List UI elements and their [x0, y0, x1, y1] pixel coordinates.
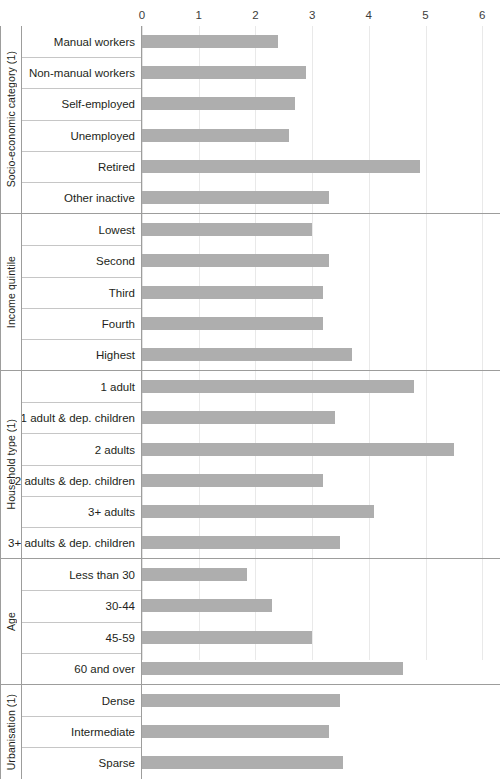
- category-label-column: Manual workersNon-manual workersSelf-emp…: [22, 26, 142, 213]
- group-axis-title: Age: [0, 559, 22, 684]
- bar: [142, 443, 454, 456]
- bar-row: [142, 88, 500, 119]
- x-axis-tick-label: 0: [139, 8, 145, 22]
- bar: [142, 694, 340, 707]
- bars-column: [142, 559, 500, 684]
- bar-row: [142, 685, 500, 716]
- bar-row: [142, 622, 500, 653]
- bar-row: [142, 308, 500, 339]
- category-label: Retired: [22, 151, 141, 182]
- chart-group: Urbanisation (1)DenseIntermediateSparse: [0, 684, 500, 779]
- category-label: Dense: [22, 685, 141, 716]
- bar: [142, 631, 312, 644]
- group-axis-title-label: Urbanisation (1): [5, 694, 17, 770]
- x-axis-tick-label: 3: [309, 8, 315, 22]
- bar-row: [142, 245, 500, 276]
- category-label: Manual workers: [22, 26, 141, 57]
- bar: [142, 35, 278, 48]
- category-label: Unemployed: [22, 120, 141, 151]
- bar-row: [142, 151, 500, 182]
- x-axis-tick-labels: 0123456: [0, 8, 500, 28]
- bar-row: [142, 747, 500, 778]
- category-label: Second: [22, 245, 141, 276]
- bar: [142, 380, 414, 393]
- bar: [142, 474, 323, 487]
- bar: [142, 348, 352, 361]
- bar-row: [142, 433, 500, 464]
- category-label: 3+ adults: [22, 496, 141, 527]
- category-label: Self-employed: [22, 88, 141, 119]
- bars-column: [142, 685, 500, 779]
- chart-group: Socio-economic category (1)Manual worker…: [0, 26, 500, 213]
- category-label: 2 adults: [22, 433, 141, 464]
- category-label: Non-manual workers: [22, 57, 141, 88]
- category-label: 1 adult & dep. children: [22, 402, 141, 433]
- bar-row: [142, 277, 500, 308]
- bar: [142, 725, 329, 738]
- chart-group: AgeLess than 3030-4445-5960 and over: [0, 558, 500, 684]
- x-axis-tick-label: 2: [252, 8, 258, 22]
- bar: [142, 97, 295, 110]
- bar-row: [142, 559, 500, 590]
- category-label: Lowest: [22, 214, 141, 245]
- group-axis-title: Urbanisation (1): [0, 685, 22, 779]
- category-label-column: DenseIntermediateSparse: [22, 685, 142, 779]
- bar-row: [142, 527, 500, 558]
- category-label: 3+ adults & dep. children: [22, 527, 141, 558]
- bar: [142, 160, 420, 173]
- bar-row: [142, 371, 500, 402]
- x-axis-tick-label: 6: [479, 8, 485, 22]
- bar: [142, 505, 374, 518]
- bar-row: [142, 465, 500, 496]
- bar-row: [142, 653, 500, 684]
- chart-group: Income quintileLowestSecondThirdFourthHi…: [0, 213, 500, 370]
- bar: [142, 223, 312, 236]
- group-axis-title-label: Household type (1): [5, 419, 17, 510]
- category-label-column: 1 adult1 adult & dep. children2 adults2 …: [22, 371, 142, 558]
- category-label-column: Less than 3030-4445-5960 and over: [22, 559, 142, 684]
- category-label: Highest: [22, 339, 141, 370]
- bar-row: [142, 182, 500, 213]
- bar: [142, 662, 403, 675]
- bars-column: [142, 371, 500, 558]
- bar-row: [142, 590, 500, 621]
- category-label: 2 adults & dep. children: [22, 465, 141, 496]
- bar: [142, 66, 306, 79]
- group-axis-title: Income quintile: [0, 214, 22, 370]
- bar-row: [142, 214, 500, 245]
- plot-area: Socio-economic category (1)Manual worker…: [0, 26, 500, 779]
- bars-column: [142, 214, 500, 370]
- category-label-column: LowestSecondThirdFourthHighest: [22, 214, 142, 370]
- x-axis-tick-label: 5: [422, 8, 428, 22]
- x-axis-tick-label: 1: [195, 8, 201, 22]
- category-label: Intermediate: [22, 716, 141, 747]
- bar: [142, 536, 340, 549]
- category-label: Third: [22, 277, 141, 308]
- bar: [142, 568, 247, 581]
- bar-row: [142, 120, 500, 151]
- group-axis-title-label: Age: [5, 612, 17, 631]
- category-label: Sparse: [22, 747, 141, 778]
- bar-row: [142, 57, 500, 88]
- bar: [142, 599, 272, 612]
- category-label: Fourth: [22, 308, 141, 339]
- bar: [142, 317, 323, 330]
- category-label: Other inactive: [22, 182, 141, 213]
- category-label: 1 adult: [22, 371, 141, 402]
- category-label: 45-59: [22, 622, 141, 653]
- bar: [142, 411, 335, 424]
- bar-row: [142, 339, 500, 370]
- group-axis-title-label: Socio-economic category (1): [5, 51, 17, 187]
- bar-row: [142, 26, 500, 57]
- bars-column: [142, 26, 500, 213]
- bar: [142, 286, 323, 299]
- category-label: 30-44: [22, 590, 141, 621]
- bar: [142, 129, 289, 142]
- group-axis-title: Household type (1): [0, 371, 22, 558]
- bar: [142, 254, 329, 267]
- x-axis-tick-label: 4: [366, 8, 372, 22]
- bar: [142, 756, 343, 769]
- category-label: Less than 30: [22, 559, 141, 590]
- bar: [142, 191, 329, 204]
